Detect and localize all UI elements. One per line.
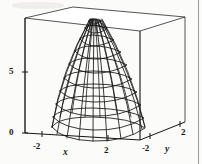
z-tick-label-0: 0 [9,128,13,137]
paraboloid-surface-mesh [52,19,145,141]
y-axis-title: y [165,145,169,155]
bounding-box-edges [25,17,185,140]
page-border-line [198,0,199,164]
axis-tick-marks [22,72,180,141]
x-axis-title: x [63,148,68,158]
surface-plot-canvas [0,0,202,164]
z-tick-label-5: 5 [9,67,13,76]
y-tick-label-pos2: 2 [181,128,185,137]
mesh-meridian-5 [93,19,94,141]
y-tick-label-neg2: -2 [142,144,149,153]
y-axis-line [140,122,185,140]
mesh-meridian-back-6 [97,19,117,113]
x-tick-label-neg2: -2 [33,142,40,151]
x-tick-label-pos2: 2 [104,146,108,155]
figure-root: 0 5 -2 x 2 -2 y 2 [0,0,202,164]
mesh-meridian-3 [67,19,92,138]
